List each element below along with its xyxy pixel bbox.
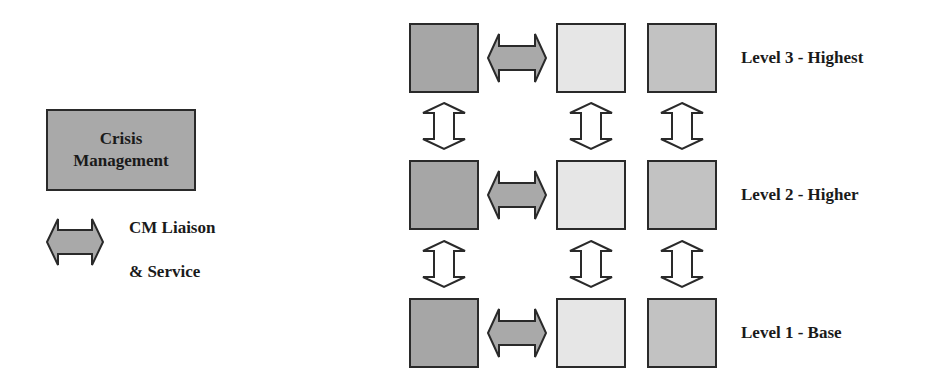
level3-label: Level 3 - Highest [741, 48, 863, 68]
key-liaison-line2: & Service [129, 262, 200, 282]
liaison-arrow-icon [46, 218, 104, 266]
level2-crisis-management-box [409, 160, 479, 230]
vertical-arrow-icon [421, 102, 467, 150]
vertical-arrow-icon [421, 240, 467, 288]
key-crisis-line1: Crisis [100, 128, 143, 150]
level1-liaison-arrow-icon [487, 308, 547, 358]
level3-liaison-arrow-icon [487, 33, 547, 83]
level2-label: Level 2 - Higher [741, 185, 859, 205]
key-crisis-management-box: Crisis Management [46, 109, 196, 191]
level3-box-2 [556, 23, 626, 93]
level2-box-2 [556, 160, 626, 230]
level3-box-3 [647, 23, 717, 93]
level2-box-3 [647, 160, 717, 230]
level1-box-3 [647, 298, 717, 368]
vertical-arrow-icon [659, 102, 705, 150]
key-liaison-line1: CM Liaison [129, 218, 215, 238]
level3-crisis-management-box [409, 23, 479, 93]
level1-label: Level 1 - Base [741, 323, 842, 343]
vertical-arrow-icon [568, 240, 614, 288]
level2-liaison-arrow-icon [487, 170, 547, 220]
vertical-arrow-icon [568, 102, 614, 150]
level1-box-2 [556, 298, 626, 368]
level1-crisis-management-box [409, 298, 479, 368]
key-crisis-line2: Management [73, 150, 168, 172]
vertical-arrow-icon [659, 240, 705, 288]
